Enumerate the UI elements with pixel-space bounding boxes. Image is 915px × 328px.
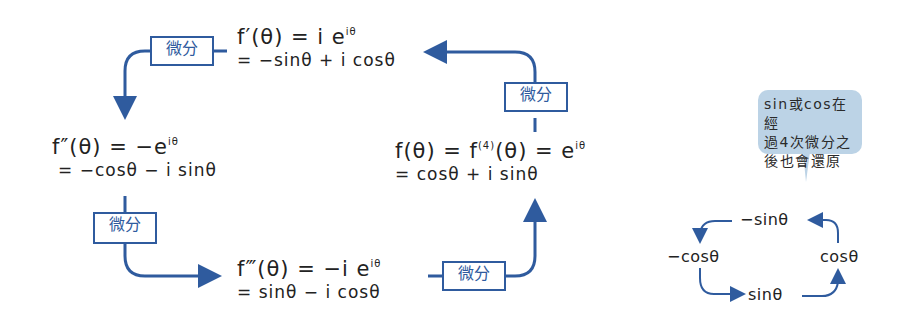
mini-right: cosθ — [820, 247, 859, 266]
edge-label-box-f0-f1: 微分 — [504, 82, 568, 112]
node-f3-line1: f‴(θ) = −i e — [237, 257, 371, 281]
node-f2: f″(θ) = −eiθ = −cosθ − i sinθ — [52, 130, 217, 181]
node-f2-line2: = −cosθ − i sinθ — [52, 159, 217, 181]
node-f1-line2: = −sinθ + i cosθ — [237, 49, 396, 71]
callout-bubble: sin或cos在經 過4次微分之 後也會還原 — [758, 90, 862, 154]
node-f3: f‴(θ) = −i eiθ = sinθ − i cosθ — [237, 252, 381, 303]
callout-line-3: 後也會還原 — [764, 152, 856, 171]
node-f0-line2: = cosθ + i sinθ — [395, 163, 586, 185]
mini-bottom: sinθ — [748, 285, 783, 304]
mini-left: −cosθ — [667, 247, 720, 266]
node-f0-sup: iθ — [575, 140, 586, 151]
node-f0-sup-a: (4) — [478, 140, 495, 151]
edge-label-box-f2-f3: 微分 — [93, 212, 157, 244]
mini-top: −sinθ — [740, 210, 789, 229]
node-f3-line2: = sinθ − i cosθ — [237, 281, 381, 303]
node-f2-line1: f″(θ) = −e — [52, 135, 168, 159]
edge-label-box-f1-f2: 微分 — [150, 36, 214, 66]
node-f0: f(θ) = f(4)(θ) = eiθ = cosθ + i sinθ — [395, 134, 586, 185]
callout-line-1: sin或cos在經 — [764, 95, 856, 133]
node-f1-sup: iθ — [346, 26, 357, 37]
node-f0-line1b: (θ) = e — [495, 139, 575, 163]
node-f1: f′(θ) = i eiθ = −sinθ + i cosθ — [237, 20, 396, 71]
edge-label-box-f3-f0: 微分 — [442, 261, 506, 291]
callout-line-2: 過4次微分之 — [764, 133, 856, 152]
node-f1-line1: f′(θ) = i e — [237, 25, 346, 49]
node-f0-line1a: f(θ) = f — [395, 139, 478, 163]
node-f2-sup: iθ — [168, 136, 179, 147]
node-f3-sup: iθ — [371, 258, 382, 269]
